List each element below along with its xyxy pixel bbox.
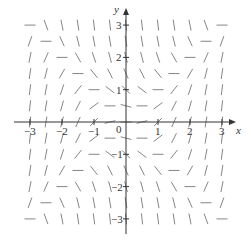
slope-segment: [171, 53, 176, 63]
slope-segment: [75, 85, 82, 94]
slope-segment: [141, 213, 142, 224]
slope-segment: [204, 52, 208, 62]
slope-segment: [154, 103, 163, 110]
slope-segment: [29, 149, 30, 160]
slope-segment: [108, 166, 113, 176]
slope-segment: [91, 166, 98, 175]
slope-segment: [141, 20, 142, 31]
y-tick-label: 1: [116, 84, 122, 96]
slope-segment: [45, 100, 47, 111]
y-tick-label: −2: [111, 181, 123, 193]
slope-segment: [76, 101, 81, 111]
slope-segment: [221, 165, 223, 176]
slope-segment: [171, 150, 178, 159]
slope-segment: [204, 20, 208, 30]
slope-segment: [155, 166, 162, 175]
slope-segment: [221, 181, 223, 192]
slope-segment: [141, 181, 144, 192]
x-tick-label: −2: [56, 125, 68, 137]
slope-segment: [77, 213, 79, 224]
y-tick-label: 3: [116, 19, 122, 31]
slope-segment: [29, 100, 30, 111]
x-tick-label: −1: [88, 125, 100, 137]
slope-segment: [188, 36, 192, 46]
slope-segment: [173, 36, 176, 47]
slope-segment: [205, 100, 207, 111]
slope-segment: [188, 198, 192, 208]
slope-segment: [205, 149, 207, 160]
slope-segment: [93, 197, 95, 208]
slope-segment: [140, 69, 145, 79]
slope-segment: [172, 101, 177, 111]
slope-segment: [221, 68, 223, 79]
slope-segment: [138, 151, 147, 158]
slope-segment: [45, 68, 48, 79]
slope-segment: [77, 36, 80, 47]
slope-segment: [141, 52, 144, 63]
slope-segment: [109, 197, 111, 208]
slope-segment: [138, 86, 147, 93]
slope-segment: [93, 20, 94, 31]
slope-segment: [109, 52, 112, 63]
slope-segment: [205, 84, 207, 95]
slope-segment: [61, 214, 63, 225]
slope-segment: [204, 182, 208, 192]
slope-segment: [45, 165, 48, 176]
x-axis-arrow-icon: [229, 119, 236, 125]
slope-segment: [204, 214, 208, 224]
x-axis-label: x: [235, 124, 241, 136]
slope-segment: [93, 36, 95, 47]
slope-segment: [61, 101, 64, 112]
slope-segment: [60, 198, 64, 208]
y-tick-label: −1: [111, 148, 123, 160]
slope-segment: [188, 84, 191, 94]
slope-segment: [108, 69, 113, 79]
slope-segment: [77, 197, 80, 208]
slope-segment: [187, 69, 192, 79]
slope-segment: [28, 198, 32, 208]
slope-segment: [157, 36, 159, 47]
slope-segment: [141, 36, 143, 47]
slope-segment: [29, 84, 30, 95]
slope-segment: [171, 182, 176, 192]
slope-segment: [59, 69, 64, 79]
x-tick-label: −3: [24, 125, 36, 137]
slope-field-diagram: −3−2−1123321−1−2−3 x y 0: [0, 0, 251, 244]
slope-segment: [157, 20, 158, 31]
slope-segment: [77, 20, 79, 31]
y-axis-label: y: [113, 3, 119, 15]
slope-segment: [171, 85, 178, 94]
slope-segment: [173, 20, 175, 31]
slope-segment: [221, 149, 222, 160]
slope-segment: [44, 20, 48, 30]
slope-segment: [60, 149, 63, 159]
slope-segment: [28, 36, 32, 46]
slope-segment: [221, 100, 222, 111]
slope-segment: [76, 133, 81, 143]
slope-segment: [220, 36, 224, 46]
slope-segment: [29, 68, 31, 79]
slope-segment: [60, 84, 63, 94]
slope-segment: [172, 133, 177, 143]
slope-segment: [220, 198, 224, 208]
slope-segment: [29, 165, 31, 176]
slope-segment: [156, 52, 159, 62]
x-tick-label: 2: [187, 125, 193, 137]
slope-segment: [221, 84, 222, 95]
slope-segment: [106, 86, 115, 93]
slope-segment: [44, 182, 48, 192]
y-tick-label: 2: [116, 51, 122, 63]
slope-segment: [189, 214, 191, 225]
y-axis-arrow-icon: [123, 8, 129, 15]
slope-segment: [29, 181, 31, 192]
slope-segment: [60, 36, 64, 46]
slope-segment: [157, 213, 158, 224]
slope-segment: [155, 69, 162, 78]
slope-segment: [157, 197, 159, 208]
slope-segment: [29, 52, 31, 63]
slope-segment: [92, 181, 95, 191]
slope-segment: [90, 103, 99, 110]
slope-segment: [187, 166, 192, 176]
slope-segment: [189, 101, 192, 112]
slope-segment: [92, 52, 95, 62]
